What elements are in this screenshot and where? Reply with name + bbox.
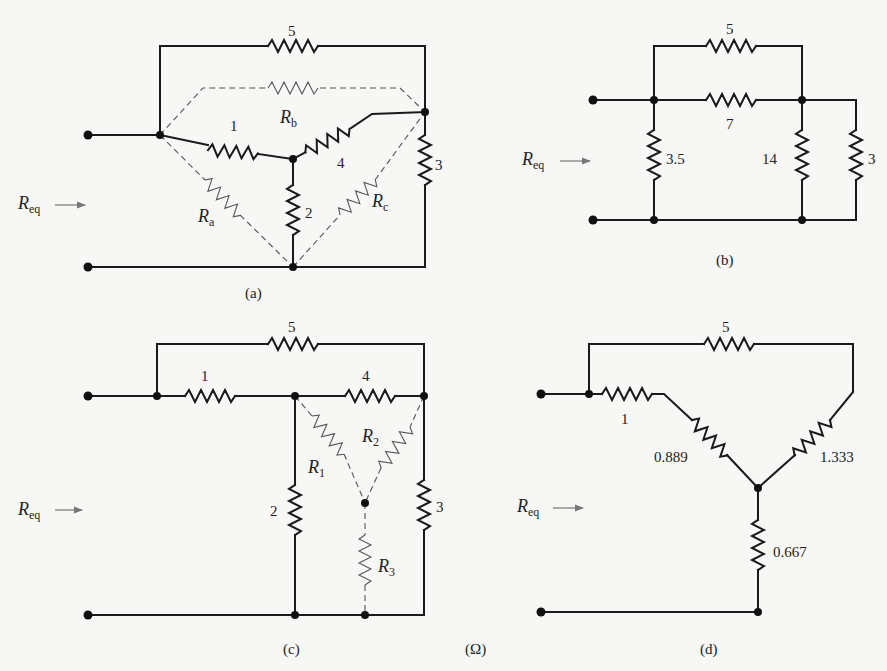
resistor-1 xyxy=(208,144,259,159)
node xyxy=(798,216,806,224)
caption-a: (a) xyxy=(245,285,262,302)
terminal-top xyxy=(84,131,93,140)
label-4: 4 xyxy=(362,368,370,384)
label-5: 5 xyxy=(726,21,734,37)
label-14: 14 xyxy=(762,151,778,167)
node xyxy=(798,96,806,104)
wire xyxy=(727,455,758,488)
resistor-3 xyxy=(419,135,431,185)
resistor-1 xyxy=(185,390,235,402)
wire xyxy=(593,180,856,220)
dashed-wire xyxy=(344,454,365,503)
node xyxy=(156,131,164,139)
dashed-wire xyxy=(293,215,340,267)
label-2: 2 xyxy=(305,205,313,221)
label-1: 1 xyxy=(230,118,238,134)
dashed-wire xyxy=(240,215,293,267)
wire xyxy=(830,392,853,420)
terminal-top xyxy=(537,390,546,399)
node xyxy=(153,392,161,400)
wire xyxy=(652,394,692,420)
dashed-wire xyxy=(375,112,425,180)
label-1-333: 1.333 xyxy=(820,449,854,465)
resistor-5 xyxy=(704,338,754,350)
wire xyxy=(160,135,208,145)
node xyxy=(289,263,297,271)
dashed-wire xyxy=(410,396,424,427)
caption-c: (c) xyxy=(283,641,300,658)
wire xyxy=(318,344,424,396)
label-7: 7 xyxy=(726,116,734,132)
node xyxy=(291,611,299,619)
label-rc: Rc xyxy=(371,191,388,214)
node xyxy=(361,499,369,507)
label-0-667: 0.667 xyxy=(773,544,807,560)
wire xyxy=(654,46,706,100)
wire xyxy=(541,570,758,612)
wire xyxy=(758,455,795,488)
resistor-4 xyxy=(345,390,395,402)
caption-d: (d) xyxy=(700,641,718,658)
wire xyxy=(351,112,425,128)
label-5: 5 xyxy=(288,319,296,335)
label-3: 3 xyxy=(868,151,876,167)
wire xyxy=(293,185,425,267)
terminal-bottom xyxy=(84,611,93,620)
label-2: 2 xyxy=(270,503,278,519)
label-r2: R2 xyxy=(361,426,379,449)
panel-a: 5 1 4 2 3 Rb Ra Rc Req (a) xyxy=(17,23,443,302)
resistor-0-667 xyxy=(752,520,764,570)
label-req: Req xyxy=(17,193,40,216)
resistor-0-889 xyxy=(688,416,732,460)
terminal-bottom xyxy=(537,608,546,617)
panel-d: 5 1 0.889 1.333 0.667 Req (d) xyxy=(516,319,854,658)
node xyxy=(421,108,429,116)
circuit-figure: 5 1 4 2 3 Rb Ra Rc Req (a) 5 7 xyxy=(0,0,887,671)
node xyxy=(420,392,428,400)
terminal-bottom xyxy=(589,216,598,225)
node xyxy=(754,484,762,492)
label-ra: Ra xyxy=(197,206,215,229)
label-r1: R1 xyxy=(307,457,325,480)
wire xyxy=(754,344,853,392)
resistor-2 xyxy=(289,485,301,535)
label-5: 5 xyxy=(288,23,296,39)
wire xyxy=(157,344,268,396)
resistor-2 xyxy=(287,185,299,235)
label-1: 1 xyxy=(621,411,629,427)
node xyxy=(289,155,297,163)
resistor-r2 xyxy=(376,424,415,472)
resistor-4 xyxy=(303,124,353,158)
node xyxy=(650,216,658,224)
label-r3: R3 xyxy=(377,556,395,579)
node xyxy=(361,611,369,619)
resistor-5 xyxy=(268,40,318,52)
terminal-top xyxy=(84,392,93,401)
panel-c: 5 1 4 2 3 R1 R2 R3 Req (c) (Ω) xyxy=(17,319,486,658)
terminal-bottom xyxy=(84,263,93,272)
label-4: 4 xyxy=(337,155,345,171)
resistor-rb xyxy=(268,82,318,94)
terminal-top xyxy=(589,96,598,105)
wire xyxy=(756,46,802,100)
wire xyxy=(160,46,268,135)
dashed-wire xyxy=(320,88,425,112)
label-rb: Rb xyxy=(279,107,297,130)
node xyxy=(754,608,762,616)
wire xyxy=(318,46,425,112)
label-0-889: 0.889 xyxy=(654,449,688,465)
caption-b: (b) xyxy=(716,252,734,269)
node xyxy=(291,392,299,400)
resistor-7 xyxy=(706,94,756,106)
resistor-5 xyxy=(268,338,318,350)
wire xyxy=(756,100,856,130)
wire xyxy=(258,154,293,159)
label-5: 5 xyxy=(722,319,730,335)
wire xyxy=(88,530,424,615)
label-3: 3 xyxy=(436,499,444,515)
unit-label: (Ω) xyxy=(465,641,486,658)
resistor-r3 xyxy=(359,535,371,585)
label-req: Req xyxy=(17,499,40,522)
dashed-wire xyxy=(160,88,268,135)
label-1: 1 xyxy=(201,368,209,384)
